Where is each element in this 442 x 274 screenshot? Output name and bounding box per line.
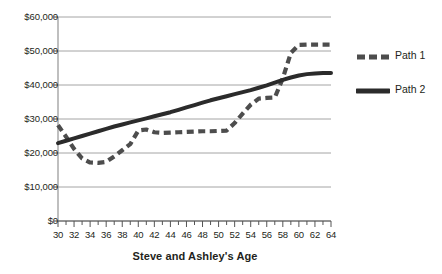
legend-swatch-dashed-icon	[356, 49, 390, 61]
legend-label-path-1: Path 1	[390, 49, 425, 61]
x-axis-tick-label: 64	[319, 230, 343, 240]
y-axis-tick-label: $0	[4, 216, 58, 226]
y-axis-tick-label: $50,000	[4, 46, 58, 56]
x-axis-title: Steve and Ashley's Age	[58, 250, 332, 262]
series-line-path-2	[58, 73, 331, 143]
legend-item-path-1[interactable]: Path 1	[356, 38, 442, 72]
legend-label-path-2: Path 2	[390, 83, 425, 95]
data-series-layer	[58, 45, 331, 163]
y-axis-tick-label: $20,000	[4, 148, 58, 158]
chart-container: $0$10,000$20,000$30,000$40,000$50,000$60…	[0, 0, 442, 274]
legend-item-path-2[interactable]: Path 2	[356, 72, 442, 106]
legend-swatch-solid-icon	[356, 83, 390, 95]
x-axis-ticks	[58, 221, 331, 227]
y-axis-tick-label: $60,000	[4, 12, 58, 22]
y-axis-tick-label: $10,000	[4, 182, 58, 192]
chart-legend: Path 1 Path 2	[356, 38, 442, 106]
y-axis-tick-label: $30,000	[4, 114, 58, 124]
gridlines	[58, 17, 331, 221]
y-axis-tick-label: $40,000	[4, 80, 58, 90]
